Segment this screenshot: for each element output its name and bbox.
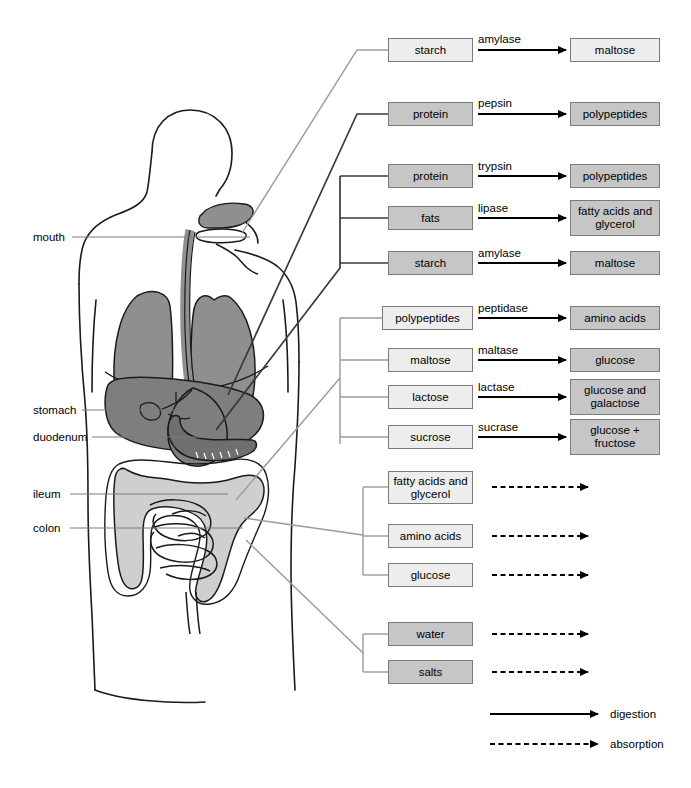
product-box-polypeptides-stomach[interactable]: polypeptides: [570, 102, 660, 126]
substrate-box-fatty-acids-glycerol[interactable]: fatty acids and glycerol: [388, 471, 473, 504]
label-ileum: ileum: [33, 488, 60, 500]
substrate-box-lactose[interactable]: lactose: [388, 385, 473, 409]
label-stomach: stomach: [33, 404, 76, 416]
substrate-box-amino-acids[interactable]: amino acids: [388, 524, 473, 548]
enzyme-label-amylase-duodenum: amylase: [478, 247, 521, 259]
product-box-glucose[interactable]: glucose: [570, 348, 660, 372]
diagram-canvas: mouth stomach duodenum ileum colon starc…: [0, 0, 691, 788]
substrate-box-polypeptides-ileum[interactable]: polypeptides: [382, 306, 473, 330]
substrate-box-maltose-ileum[interactable]: maltose: [388, 348, 473, 372]
product-box-maltose-mouth[interactable]: maltose: [570, 38, 660, 62]
label-colon: colon: [33, 522, 61, 534]
hip-outline: [95, 690, 205, 703]
neck-left-outline: [79, 152, 152, 284]
product-box-amino-acids[interactable]: amino acids: [570, 306, 660, 330]
product-box-glucose-fructose[interactable]: glucose + fructose: [570, 419, 660, 455]
colon: [114, 468, 264, 601]
product-box-maltose-duodenum[interactable]: maltose: [570, 251, 660, 275]
chin-outline: [216, 244, 258, 274]
legend-label-absorption: absorption: [610, 738, 664, 750]
product-box-fatty-acids-glycerol[interactable]: fatty acids and glycerol: [570, 200, 660, 236]
enzyme-label-amylase-mouth: amylase: [478, 33, 521, 45]
rectum: [186, 592, 190, 634]
tongue-shape: [196, 229, 246, 243]
arm-left-inner: [92, 300, 96, 392]
substrate-box-fats[interactable]: fats: [388, 206, 473, 230]
enzyme-label-lactase: lactase: [478, 381, 514, 393]
label-mouth: mouth: [33, 231, 65, 243]
substrate-box-water[interactable]: water: [388, 622, 473, 646]
substrate-box-protein-stomach[interactable]: protein: [388, 102, 473, 126]
product-box-glucose-galactose[interactable]: glucose and galactose: [570, 379, 660, 415]
product-box-polypeptides-duodenum[interactable]: polypeptides: [570, 164, 660, 188]
substrate-box-salts[interactable]: salts: [388, 660, 473, 684]
enzyme-label-sucrase: sucrase: [478, 421, 518, 433]
enzyme-label-peptidase: peptidase: [478, 302, 528, 314]
substrate-box-glucose[interactable]: glucose: [388, 563, 473, 587]
enzyme-label-trypsin: trypsin: [478, 160, 512, 172]
head-outline: [152, 110, 232, 196]
substrate-box-starch-duodenum[interactable]: starch: [388, 251, 473, 275]
enzyme-label-lipase: lipase: [478, 202, 508, 214]
enzyme-label-maltase: maltase: [478, 344, 518, 356]
label-duodenum: duodenum: [33, 431, 87, 443]
legend-label-digestion: digestion: [610, 708, 656, 720]
substrate-box-protein-duodenum[interactable]: protein: [388, 164, 473, 188]
substrate-box-starch-mouth[interactable]: starch: [388, 38, 473, 62]
torso-right-outline: [291, 362, 299, 690]
substrate-box-sucrose[interactable]: sucrose: [388, 425, 473, 449]
enzyme-label-pepsin: pepsin: [478, 97, 512, 109]
arm-right-inner: [283, 300, 288, 392]
